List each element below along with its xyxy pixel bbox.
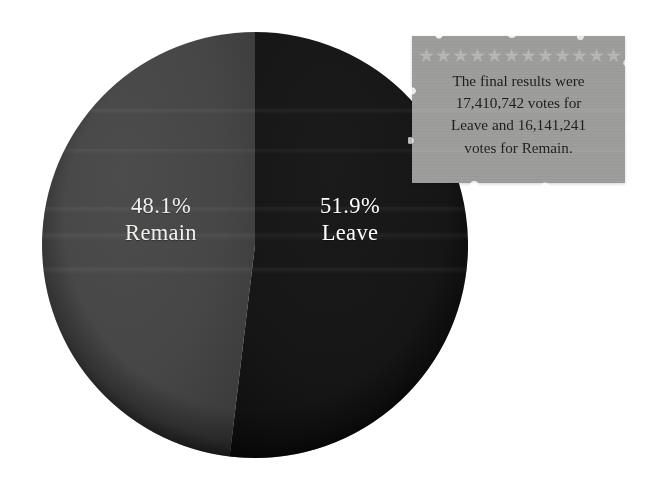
star-row: ★ ★ ★ ★ ★ ★ ★ ★ ★ ★ ★ ★ [418,44,619,66]
leave-name: Leave [290,220,410,247]
note-line-3: Leave and 16,141,241 [422,114,615,136]
star-icon: ★ [503,46,520,65]
leave-percent: 51.9% [290,193,410,220]
pie-label-leave: 51.9% Leave [290,193,410,246]
note-line-4: votes for Remain. [422,137,615,159]
screenshot-canvas: 48.1% Remain 51.9% Leave ★ ★ ★ ★ ★ ★ ★ ★… [0,0,647,487]
star-icon: ★ [486,46,503,65]
note-line-2: 17,410,742 votes for [422,92,615,114]
remain-percent: 48.1% [96,193,226,220]
results-note-card: ★ ★ ★ ★ ★ ★ ★ ★ ★ ★ ★ ★ The final result… [412,36,625,183]
star-icon: ★ [537,46,554,65]
star-icon: ★ [418,46,435,65]
star-icon: ★ [435,46,452,65]
remain-name: Remain [96,220,226,247]
star-icon: ★ [452,46,469,65]
star-icon: ★ [520,46,537,65]
star-icon: ★ [588,46,605,65]
note-line-1: The final results were [422,70,615,92]
star-icon: ★ [554,46,571,65]
star-icon: ★ [469,46,486,65]
results-note-text: The final results were 17,410,742 votes … [422,70,615,159]
star-icon: ★ [571,46,588,65]
pie-label-remain: 48.1% Remain [96,193,226,246]
star-icon: ★ [605,46,622,65]
